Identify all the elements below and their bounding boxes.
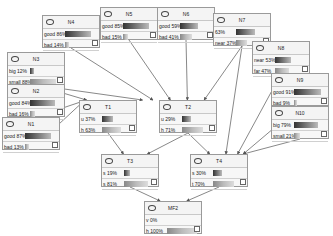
node-checkbox[interactable]: [209, 125, 215, 131]
node-header[interactable]: T4: [191, 155, 247, 168]
node-header[interactable]: N7: [214, 14, 270, 27]
state-row[interactable]: bad 15%: [101, 32, 157, 43]
node-checkbox[interactable]: [129, 125, 135, 131]
node-header[interactable]: T1: [80, 101, 136, 114]
state-row[interactable]: bad 41%: [158, 32, 214, 43]
node-checkbox[interactable]: [92, 40, 98, 46]
probability-bar: [124, 170, 130, 176]
state-row[interactable]: 63%: [214, 27, 270, 38]
node-title: N7: [214, 17, 270, 23]
state-row[interactable]: s 19%: [102, 168, 158, 179]
state-label: good 86%: [44, 31, 67, 37]
state-row[interactable]: h 71%: [160, 125, 216, 136]
state-row[interactable]: u 37%: [80, 114, 136, 125]
probability-bar: [25, 144, 29, 150]
state-row[interactable]: big 12%: [8, 66, 64, 77]
node-checkbox[interactable]: [151, 179, 157, 185]
state-row[interactable]: good 85%: [101, 21, 157, 32]
state-label: s 81%: [103, 181, 117, 187]
state-label: big 12%: [9, 68, 27, 74]
state-row[interactable]: near 53%: [253, 55, 309, 66]
node-checkbox[interactable]: [57, 109, 63, 115]
state-row[interactable]: s 30%: [191, 168, 247, 179]
node-t4[interactable]: T4s 30%t 70%: [190, 154, 248, 187]
node-mf2[interactable]: MF2v 0%h 100%: [144, 201, 202, 234]
probability-bar: [275, 57, 291, 63]
node-t1[interactable]: T1u 37%h 63%: [79, 100, 137, 133]
state-row[interactable]: u 29%: [160, 114, 216, 125]
probability-bar: [30, 100, 55, 106]
probability-bar: [182, 116, 191, 122]
state-label: far 47%: [254, 68, 271, 74]
state-row[interactable]: good 87%: [3, 131, 59, 142]
state-label: u 29%: [161, 116, 175, 122]
node-header[interactable]: MF2: [145, 202, 201, 215]
node-n8[interactable]: N8near 53%far 47%: [252, 41, 310, 74]
state-label: bad 41%: [159, 34, 179, 40]
node-n2[interactable]: N2good 84%bad 16%: [7, 84, 65, 117]
node-title: T3: [102, 158, 158, 164]
node-header[interactable]: N1: [3, 118, 59, 131]
edge-arrow: [147, 133, 188, 154]
node-header[interactable]: N5: [101, 8, 157, 21]
node-n10[interactable]: N10big 79%small 21%: [271, 106, 329, 139]
node-header[interactable]: N4: [43, 16, 99, 29]
state-label: v 0%: [146, 217, 157, 223]
node-title: N10: [272, 110, 328, 116]
probability-bar: [236, 29, 255, 35]
node-header[interactable]: N8: [253, 42, 309, 55]
node-checkbox[interactable]: [240, 179, 246, 185]
state-label: big 79%: [273, 122, 291, 128]
node-title: N8: [253, 45, 309, 51]
node-title: T4: [191, 158, 247, 164]
state-row[interactable]: h 63%: [80, 125, 136, 136]
node-checkbox[interactable]: [321, 98, 327, 104]
node-n1[interactable]: N1good 87%bad 13%: [2, 117, 60, 150]
node-checkbox[interactable]: [57, 77, 63, 83]
node-checkbox[interactable]: [150, 32, 156, 38]
state-label: bad 13%: [4, 144, 24, 150]
node-checkbox[interactable]: [321, 131, 327, 137]
node-n3[interactable]: N3big 12%small 88%: [7, 52, 65, 85]
probability-bar: [65, 31, 91, 37]
edge-arrow: [188, 133, 210, 154]
state-label: t 70%: [192, 181, 205, 187]
state-label: near 37%: [215, 40, 236, 46]
node-n9[interactable]: N9good 91%bad 9%: [271, 73, 329, 106]
node-header[interactable]: T2: [160, 101, 216, 114]
node-header[interactable]: T3: [102, 155, 158, 168]
node-n5[interactable]: N5good 85%bad 15%: [100, 7, 158, 40]
state-row[interactable]: good 86%: [43, 29, 99, 40]
state-row[interactable]: h 100%: [145, 226, 201, 236]
state-row[interactable]: bad 13%: [3, 142, 59, 153]
node-header[interactable]: N10: [272, 107, 328, 120]
node-n4[interactable]: N4good 86%bad 14%: [42, 15, 100, 48]
node-header[interactable]: N2: [8, 85, 64, 98]
state-row[interactable]: good 84%: [8, 98, 64, 109]
state-row[interactable]: good 59%: [158, 21, 214, 32]
node-checkbox[interactable]: [52, 142, 58, 148]
node-title: N5: [101, 11, 157, 17]
node-header[interactable]: N6: [158, 8, 214, 21]
state-row[interactable]: s 81%: [102, 179, 158, 190]
edge-arrow: [129, 40, 170, 100]
state-row[interactable]: good 91%: [272, 87, 328, 98]
state-label: good 87%: [4, 133, 27, 139]
state-row[interactable]: small 21%: [272, 131, 328, 142]
node-title: N1: [3, 121, 59, 127]
state-row[interactable]: bad 14%: [43, 40, 99, 51]
node-t2[interactable]: T2u 29%h 71%: [159, 100, 217, 133]
node-n6[interactable]: N6good 59%bad 41%: [157, 7, 215, 40]
node-checkbox[interactable]: [302, 66, 308, 72]
state-label: small 21%: [273, 133, 296, 139]
node-header[interactable]: N3: [8, 53, 64, 66]
node-t3[interactable]: T3s 19%s 81%: [101, 154, 159, 187]
state-row[interactable]: v 0%: [145, 215, 201, 226]
state-row[interactable]: big 79%: [272, 120, 328, 131]
node-title: N9: [272, 77, 328, 83]
probability-bar: [102, 127, 121, 133]
node-header[interactable]: N9: [272, 74, 328, 87]
state-row[interactable]: t 70%: [191, 179, 247, 190]
probability-bar: [213, 170, 222, 176]
node-checkbox[interactable]: [194, 226, 200, 232]
